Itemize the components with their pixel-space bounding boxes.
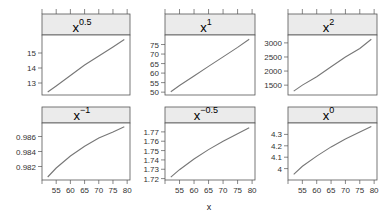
- y-tick-label: 70: [150, 50, 159, 59]
- y-tick-label: 1.77: [143, 128, 159, 137]
- panel-x1: x1505560657075: [150, 9, 255, 97]
- y-tick-label: 4.2: [271, 142, 283, 151]
- y-tick-label: 2500: [264, 53, 282, 62]
- y-tick-label: 65: [150, 60, 159, 69]
- y-tick-label: 2000: [264, 67, 282, 76]
- x-tick-label: 65: [204, 186, 213, 195]
- y-tick-label: 0.984: [16, 148, 37, 157]
- y-tick-label: 1.76: [143, 137, 159, 146]
- y-tick-label: 4.1: [271, 153, 283, 162]
- x-tick-label: 70: [94, 186, 103, 195]
- y-tick-label: 60: [150, 69, 159, 78]
- x-tick-label: 60: [190, 186, 199, 195]
- y-tick-label: 4: [278, 165, 283, 174]
- y-tick-label: 4.3: [271, 130, 283, 139]
- x-tick-label: 80: [370, 186, 379, 195]
- y-tick-label: 15: [27, 49, 36, 58]
- y-tick-label: 1.74: [143, 156, 159, 165]
- y-tick-label: 1.73: [143, 165, 159, 174]
- x-tick-label: 70: [341, 186, 350, 195]
- x-tick-label: 55: [175, 186, 184, 195]
- panel-x2: x21500200025003000: [264, 9, 377, 95]
- panel-plot-area: [42, 123, 130, 180]
- y-tick-label: 0.986: [16, 133, 37, 142]
- x-tick-label: 55: [298, 186, 307, 195]
- x-axis-label: x: [207, 202, 212, 212]
- y-tick-label: 3000: [264, 39, 282, 48]
- y-tick-label: 55: [150, 79, 159, 88]
- x-tick-label: 75: [109, 186, 118, 195]
- x-tick-label: 80: [123, 186, 132, 195]
- y-tick-label: 1500: [264, 81, 282, 90]
- panel-plot-area: [288, 123, 377, 180]
- x-tick-label: 75: [233, 186, 242, 195]
- y-tick-label: 14: [27, 64, 36, 73]
- x-tick-label: 60: [312, 186, 321, 195]
- y-tick-label: 75: [150, 41, 159, 50]
- panel-x0.5: x0.5131415: [27, 9, 130, 95]
- y-tick-label: 0.982: [16, 163, 37, 172]
- y-tick-label: 13: [27, 79, 36, 88]
- x-tick-label: 75: [355, 186, 364, 195]
- panel-x0: x044.14.24.3556065707580: [271, 105, 379, 195]
- panel-x-1: x−10.9820.9840.986556065707580: [16, 105, 132, 195]
- x-tick-label: 65: [327, 186, 336, 195]
- panel-x-0.5: x−0.51.721.731.741.751.761.7755606570758…: [143, 105, 257, 195]
- lattice-chart: x0.5131415x1505560657075x215002000250030…: [0, 0, 391, 218]
- x-tick-label: 65: [80, 186, 89, 195]
- y-tick-label: 1.72: [143, 175, 159, 184]
- x-tick-label: 80: [248, 186, 257, 195]
- x-tick-label: 55: [52, 186, 61, 195]
- x-tick-label: 70: [219, 186, 228, 195]
- y-tick-label: 50: [150, 88, 159, 97]
- x-tick-label: 60: [66, 186, 75, 195]
- y-tick-label: 1.75: [143, 147, 159, 156]
